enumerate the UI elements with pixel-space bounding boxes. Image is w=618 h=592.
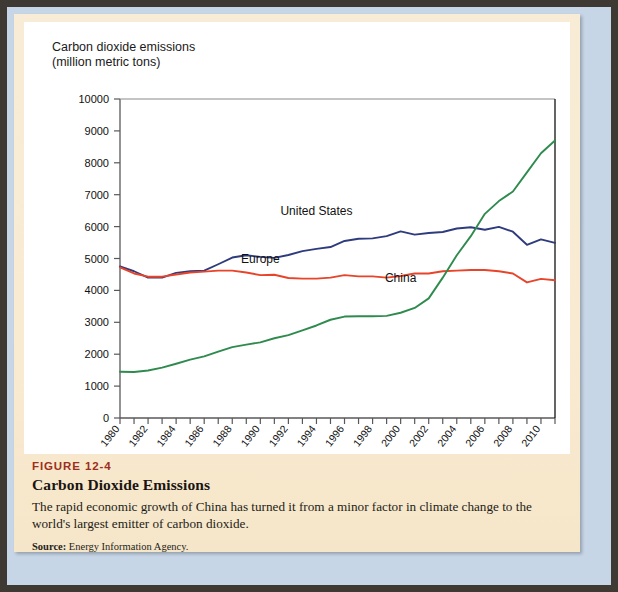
y-tick-label: 3000 xyxy=(85,316,109,328)
source-prefix: Source: xyxy=(32,541,66,552)
chart-axes xyxy=(120,99,555,418)
x-tick-label: 1990 xyxy=(238,423,262,449)
y-tick-label: 1000 xyxy=(85,380,109,392)
x-tick-label: 2008 xyxy=(491,423,515,449)
x-tick-label: 2010 xyxy=(519,423,543,449)
x-tick-label: 2002 xyxy=(406,423,430,449)
x-tick-label: 1986 xyxy=(182,423,206,449)
data-series-group xyxy=(120,140,555,372)
x-tick-label: 1984 xyxy=(154,423,178,449)
series-label-united-states: United States xyxy=(280,204,352,218)
y-tick-label: 9000 xyxy=(85,125,109,137)
x-tick-label: 1988 xyxy=(210,423,234,449)
x-tick-label: 1994 xyxy=(294,423,318,449)
x-tick-label: 1982 xyxy=(126,423,150,449)
figure-caption: FIGURE 12-4 Carbon Dioxide Emissions The… xyxy=(24,460,560,552)
series-line-europe xyxy=(120,267,555,282)
y-tick-label: 8000 xyxy=(85,157,109,169)
series-labels-group: United StatesEuropeChina xyxy=(241,204,417,285)
y-tick-label: 0 xyxy=(103,412,109,424)
figure-source: Source: Energy Information Agency. xyxy=(32,541,560,552)
series-line-china xyxy=(120,140,555,372)
figure-page: Carbon dioxide emissions (million metric… xyxy=(0,0,618,592)
x-tick-label: 1996 xyxy=(322,423,346,449)
figure-panel: Carbon dioxide emissions (million metric… xyxy=(14,14,580,552)
series-label-china: China xyxy=(385,271,417,285)
y-tick-label: 6000 xyxy=(85,221,109,233)
y-tick-label: 10000 xyxy=(78,93,109,105)
y-tick-label: 4000 xyxy=(85,284,109,296)
y-tick-label: 2000 xyxy=(85,348,109,360)
source-text: Energy Information Agency. xyxy=(69,541,189,552)
x-axis-ticks: 1980198219841986198819901992199419961998… xyxy=(98,418,555,449)
y-tick-label: 7000 xyxy=(85,189,109,201)
x-tick-label: 2006 xyxy=(463,423,487,449)
y-tick-label: 5000 xyxy=(85,253,109,265)
y-axis-ticks: 0100020003000400050006000700080009000100… xyxy=(78,93,120,424)
figure-number: FIGURE 12-4 xyxy=(32,460,560,472)
x-tick-label: 1992 xyxy=(266,423,290,449)
chart-card: Carbon dioxide emissions (million metric… xyxy=(24,22,570,454)
x-tick-label: 2004 xyxy=(435,423,459,449)
x-tick-label: 2000 xyxy=(378,423,402,449)
line-chart: 0100020003000400050006000700080009000100… xyxy=(24,22,570,454)
x-tick-label: 1998 xyxy=(350,423,374,449)
x-tick-label: 1980 xyxy=(98,423,122,449)
series-label-europe: Europe xyxy=(241,252,280,266)
figure-title: Carbon Dioxide Emissions xyxy=(32,476,560,494)
figure-description: The rapid economic growth of China has t… xyxy=(32,499,552,532)
